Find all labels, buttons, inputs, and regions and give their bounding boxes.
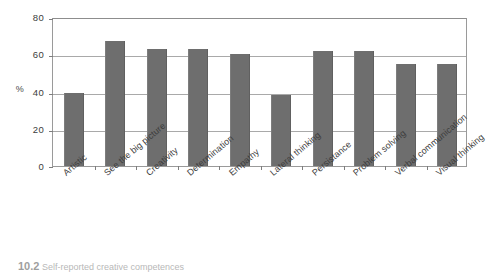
figure-caption: 10.2 Self-reported creative competences [18,260,184,272]
bar [230,54,250,166]
bar [396,64,416,166]
y-tick-label: 40 [18,87,44,98]
y-tick-label: 0 [18,161,44,172]
bar [188,49,208,166]
y-tick-mark [49,167,53,168]
bar [313,51,333,166]
y-tick-label: 60 [18,49,44,60]
bar-series [53,19,466,166]
bar [147,49,167,166]
y-tick-label: 80 [18,12,44,23]
y-tick-label: 20 [18,124,44,135]
plot-area [52,18,467,167]
x-axis-tick-labels: ArtisticSee the big pictureCreativityDet… [52,170,467,250]
bar [105,41,125,166]
figure-caption-number: 10.2 [18,260,39,272]
figure-caption-text: Self-reported creative competences [42,262,184,272]
bar [437,64,457,166]
bar [354,51,374,166]
